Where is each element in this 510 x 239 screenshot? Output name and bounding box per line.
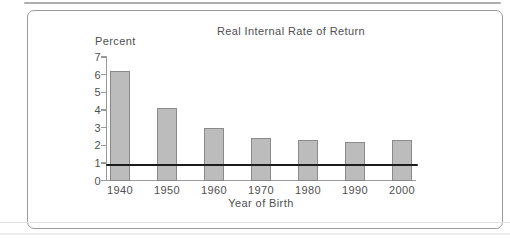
y-tick-label: 5 — [81, 86, 101, 98]
y-tick — [101, 92, 107, 93]
x-tick-label: 1990 — [334, 184, 376, 197]
bar — [392, 140, 413, 181]
bar-chart: Real Internal Rate of Return Percent Yea… — [0, 0, 510, 239]
x-tick-label: 1970 — [240, 184, 282, 197]
figure-page: Real Internal Rate of Return Percent Yea… — [0, 0, 510, 239]
y-tick — [101, 74, 107, 75]
bar — [298, 140, 319, 181]
bar — [345, 142, 366, 181]
y-tick-label: 7 — [81, 51, 101, 63]
y-tick — [101, 109, 107, 110]
y-tick-label: 0 — [81, 175, 101, 187]
x-axis-title: Year of Birth — [191, 197, 331, 210]
x-tick-label: 1940 — [99, 184, 141, 197]
y-tick-label: 3 — [81, 122, 101, 134]
page-crease-line — [0, 222, 510, 223]
y-tick — [101, 127, 107, 128]
x-tick-label: 1980 — [287, 184, 329, 197]
bar — [204, 128, 225, 181]
bar — [251, 138, 272, 180]
y-tick-label: 2 — [81, 139, 101, 151]
y-tick-label: 6 — [81, 69, 101, 81]
y-tick — [101, 145, 107, 146]
y-tick — [101, 180, 107, 181]
chart-title: Real Internal Rate of Return — [170, 25, 412, 38]
x-tick-label: 1950 — [146, 184, 188, 197]
y-axis-title: Percent — [95, 35, 155, 48]
y-tick-label: 4 — [81, 104, 101, 116]
reference-line — [106, 164, 418, 167]
y-tick-label: 1 — [81, 157, 101, 169]
x-tick-label: 2000 — [381, 184, 423, 197]
x-tick-label: 1960 — [193, 184, 235, 197]
bar — [157, 108, 178, 180]
y-tick — [101, 56, 107, 57]
